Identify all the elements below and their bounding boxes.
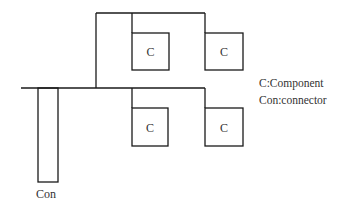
connector-label: Con — [36, 187, 56, 201]
component-label-c2: C — [220, 45, 228, 59]
component-label-c4: C — [220, 121, 228, 135]
diagram-canvas: C C C C Con C:Component Con:connector — [0, 0, 345, 207]
component-label-c3: C — [146, 121, 154, 135]
legend-component: C:Component — [259, 77, 324, 90]
legend-connector: Con:connector — [259, 94, 327, 106]
connector-box — [38, 88, 58, 182]
component-label-c1: C — [146, 45, 154, 59]
